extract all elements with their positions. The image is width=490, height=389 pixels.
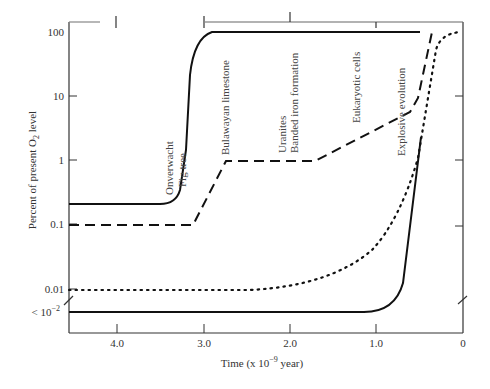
y-tick-label-1: 1 bbox=[59, 154, 65, 166]
x-axis-title: Time (x 10−9 year) bbox=[221, 355, 304, 370]
x-tick-label-2.0: 2.0 bbox=[283, 337, 297, 349]
x-axis-ticks bbox=[117, 324, 376, 333]
annotation-eukaryotic-cells: Eukaryotic cells bbox=[350, 52, 362, 123]
annotation-uranites: Uranites bbox=[276, 116, 288, 153]
x-tick-label-4.0: 4.0 bbox=[110, 337, 124, 349]
plot-frame bbox=[69, 12, 463, 333]
y-tick-label-0.1: 0.1 bbox=[50, 218, 64, 230]
series-dashed-stepwise bbox=[69, 32, 432, 225]
series-solid-early-rise bbox=[69, 32, 420, 204]
oxygen-level-chart: 100 10 1 0.1 0.01 < 10−2 4.0 3.0 2.0 1.0… bbox=[0, 0, 490, 389]
annotation-explosive-evolution: Explosive evolution bbox=[395, 67, 407, 156]
y-tick-label-below-limit: < 10−2 bbox=[32, 304, 60, 318]
x-tick-label-0: 0 bbox=[460, 337, 466, 349]
annotation-onverwacht: Onverwacht bbox=[163, 141, 175, 195]
annotation-bulawayan-limestone: Bulawayan limestone bbox=[219, 60, 231, 155]
x-tick-label-1.0: 1.0 bbox=[369, 337, 383, 349]
y-tick-label-10: 10 bbox=[53, 90, 65, 102]
y-tick-label-0.01: 0.01 bbox=[45, 283, 64, 295]
x-tick-label-3.0: 3.0 bbox=[197, 337, 211, 349]
y-tick-label-100: 100 bbox=[48, 26, 65, 38]
y-axis-title: Percent of present O2 level bbox=[26, 111, 41, 229]
axis-break-marks bbox=[64, 296, 467, 305]
annotation-fig-tree: Fig tree bbox=[176, 153, 188, 187]
annotations: Onverwacht Fig tree Bulawayan limestone … bbox=[163, 52, 407, 195]
annotation-banded-iron-formation: Banded iron formation bbox=[288, 52, 300, 153]
